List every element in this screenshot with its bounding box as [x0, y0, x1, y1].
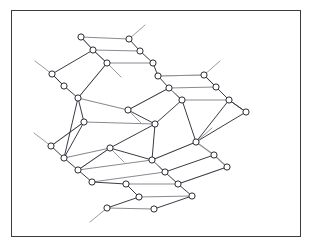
- lattice-bond-interlayer: [64, 122, 84, 158]
- lattice-node: [75, 95, 81, 101]
- lattice-bond-horizontal: [169, 87, 216, 88]
- lattice-node: [107, 145, 113, 151]
- lattice-node: [150, 60, 156, 66]
- lattice-node: [152, 121, 158, 127]
- lattice-node: [201, 72, 207, 78]
- lattice-node: [193, 139, 199, 145]
- lattice-node: [90, 47, 96, 53]
- lattice-bond-diagonal: [52, 50, 93, 74]
- lattice-node: [179, 97, 185, 103]
- lattice-node: [155, 73, 161, 79]
- lattice-node: [61, 155, 67, 161]
- lattice-bond-diagonal: [128, 88, 169, 110]
- lattice-node: [104, 60, 110, 66]
- lattice-node: [151, 206, 157, 212]
- lattice-node: [89, 179, 95, 185]
- lattice-bond-horizontal: [81, 37, 129, 39]
- lattice-bond-horizontal: [78, 98, 128, 110]
- lattice-node: [75, 167, 81, 173]
- lattice-bond-diagonal: [178, 167, 227, 184]
- lattice-node: [213, 84, 219, 90]
- lattice-bond-interlayer: [196, 100, 229, 142]
- lattice-node: [149, 157, 155, 163]
- lattice-node: [123, 181, 129, 187]
- lattice-node: [125, 107, 131, 113]
- lattice-node: [126, 36, 132, 42]
- lattice-bond-horizontal: [158, 75, 204, 76]
- lattice-node: [211, 152, 217, 158]
- lattice-node: [226, 97, 232, 103]
- lattice-node: [78, 34, 84, 40]
- figure-root: Hexagonal layered lattice perspective dr…: [0, 0, 313, 249]
- lattice-bond-diagonal: [155, 100, 182, 124]
- lattice-bond-diagonal: [78, 98, 84, 122]
- lattice-node: [104, 205, 110, 211]
- lattice-bond-diagonal: [154, 196, 192, 209]
- lattice-bond-horizontal: [107, 208, 154, 209]
- lattice-bond-diagonal: [128, 110, 155, 124]
- lattice-bond-horizontal: [139, 196, 192, 197]
- lattice-bond-interlayer: [152, 124, 155, 160]
- lattice-bond-diagonal: [92, 182, 126, 184]
- lattice-bond-diagonal: [107, 197, 139, 208]
- lattice-node: [162, 169, 168, 175]
- lattice-node: [49, 71, 55, 77]
- lattice-bond-interlayer: [110, 124, 155, 148]
- lattice-node-group: [48, 34, 249, 212]
- lattice-bond-diagonal: [152, 142, 196, 160]
- lattice-bond-interlayer: [196, 112, 246, 142]
- lattice-node: [175, 181, 181, 187]
- lattice-node: [224, 164, 230, 170]
- lattice-bond-horizontal: [93, 50, 140, 51]
- lattice-diagram: [0, 0, 313, 249]
- lattice-node: [61, 83, 67, 89]
- lattice-bond-horizontal: [78, 160, 152, 170]
- lattice-bond-diagonal: [165, 155, 214, 172]
- lattice-node: [48, 143, 54, 149]
- lattice-node: [243, 109, 249, 115]
- lattice-bond-interlayer: [182, 100, 196, 142]
- lattice-node: [189, 193, 195, 199]
- lattice-bond-horizontal: [92, 172, 165, 182]
- lattice-node: [137, 48, 143, 54]
- lattice-node: [166, 85, 172, 91]
- lattice-bond-horizontal: [84, 122, 155, 124]
- lattice-node: [81, 119, 87, 125]
- lattice-bond-diagonal: [78, 63, 107, 98]
- lattice-node: [136, 194, 142, 200]
